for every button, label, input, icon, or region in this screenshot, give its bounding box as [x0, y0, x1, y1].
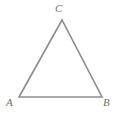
vertex-label-a: A	[6, 97, 13, 108]
vertex-label-c: C	[55, 3, 62, 14]
vertex-label-b: B	[103, 97, 110, 108]
triangle-shape	[0, 0, 116, 116]
geometry-figure: C A B	[0, 0, 116, 116]
triangle-outline	[19, 20, 102, 97]
